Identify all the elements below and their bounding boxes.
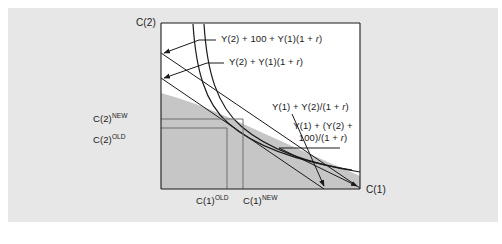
annotation-horizontal-intercept-old: Y(1) + Y(2)/(1 + r) <box>272 101 349 113</box>
x-tick-label-c1-old-base: C(1) <box>196 195 215 206</box>
annotation-vertical-intercept-new-text: Y(2) + 100 + Y(1)(1 + r) <box>221 33 322 44</box>
y-tick-label-c2-old-base: C(2) <box>93 134 112 145</box>
figure-root: C(2) C(1) Y(2) + 100 + Y(1)(1 + r) Y(2) … <box>0 0 502 244</box>
x-tick-label-c1-old-sup: OLD <box>215 194 229 201</box>
x-tick-label-c1-new-sup: NEW <box>262 194 278 201</box>
annotation-horizontal-intercept-new: Y(1) + (Y(2) + 100)/(1 + r) <box>281 120 365 144</box>
annotation-horizontal-intercept-new-text: Y(1) + (Y(2) + 100)/(1 + r) <box>293 120 352 143</box>
x-axis-label: C(1) <box>366 184 386 197</box>
annotation-vertical-intercept-old: Y(2) + Y(1)(1 + r) <box>229 56 303 68</box>
annotation-vertical-intercept-old-text: Y(2) + Y(1)(1 + r) <box>229 56 303 67</box>
x-tick-label-c1-old: C(1)OLD <box>196 195 229 207</box>
y-tick-label-c2-new: C(2)NEW <box>93 113 128 125</box>
annotation-vertical-intercept-new: Y(2) + 100 + Y(1)(1 + r) <box>221 33 322 45</box>
y-tick-label-c2-old-sup: OLD <box>112 133 126 140</box>
y-tick-label-c2-new-base: C(2) <box>93 113 112 124</box>
x-tick-label-c1-new: C(1)NEW <box>243 195 278 207</box>
y-tick-label-c2-new-sup: NEW <box>112 112 128 119</box>
y-tick-label-c2-old: C(2)OLD <box>93 134 126 146</box>
y-axis-label: C(2) <box>136 17 156 30</box>
x-tick-label-c1-new-base: C(1) <box>243 195 262 206</box>
annotation-horizontal-intercept-old-text: Y(1) + Y(2)/(1 + r) <box>272 101 349 112</box>
